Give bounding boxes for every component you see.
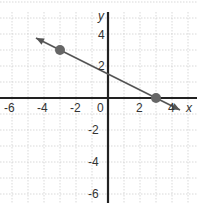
x-tick-label: 2 [136, 101, 143, 115]
data-point [55, 45, 65, 55]
x-tick-label: -2 [70, 101, 81, 115]
y-tick-label: -2 [88, 123, 99, 137]
x-tick-label: -6 [4, 101, 15, 115]
y-tick-label: -6 [88, 187, 99, 201]
y-tick-label: -4 [88, 155, 99, 169]
x-tick-label: 4 [168, 101, 175, 115]
x-axis-label: x [185, 101, 193, 115]
x-tick-label: -4 [37, 101, 48, 115]
coordinate-plane: x y 0 -6 -4 -2 2 4 4 2 -2 -4 -6 [0, 0, 197, 203]
y-tick-label: 4 [98, 28, 105, 42]
data-point [151, 93, 161, 103]
origin-label: 0 [97, 101, 104, 115]
y-axis-label: y [97, 9, 105, 23]
y-tick-label: 2 [98, 59, 105, 73]
